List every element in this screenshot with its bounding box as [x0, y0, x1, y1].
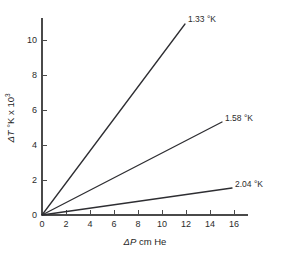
x-tick-label: 14	[205, 219, 215, 229]
series-line-1-33k	[42, 24, 185, 215]
y-tick-labels: 0 2 4 6 8 10	[27, 35, 37, 220]
y-tick-label: 6	[32, 105, 37, 115]
series-lines	[42, 24, 232, 215]
line-chart: 0 2 4 6 8 10 12 14 16 0 2 4 6 8 10 1.33 …	[0, 0, 292, 256]
y-axis-title: ΔT °K x 103	[4, 93, 16, 144]
y-tick-label: 4	[32, 140, 37, 150]
y-tick-label: 10	[27, 35, 37, 45]
series-label-2-04k: 2.04 °K	[235, 179, 263, 189]
y-tick-label: 8	[32, 70, 37, 80]
y-tick-label: 0	[32, 210, 37, 220]
x-tick-label: 2	[63, 219, 68, 229]
y-axis-title-delta: Δ	[5, 136, 16, 143]
y-tick-label: 2	[32, 175, 37, 185]
chart-figure: 0 2 4 6 8 10 12 14 16 0 2 4 6 8 10 1.33 …	[0, 0, 292, 256]
y-axis-title-exponent: 3	[4, 93, 11, 97]
x-tick-label: 0	[39, 219, 44, 229]
x-tick-label: 16	[229, 219, 239, 229]
series-label-1-33k: 1.33 °K	[188, 14, 216, 24]
y-tick-marks	[42, 40, 47, 215]
series-line-2-04k	[42, 188, 232, 215]
x-tick-label: 10	[157, 219, 167, 229]
x-tick-labels: 0 2 4 6 8 10 12 14 16	[39, 219, 239, 229]
x-tick-label: 4	[87, 219, 92, 229]
series-label-1-58k: 1.58 °K	[225, 113, 253, 123]
y-axis-title-degk: °K x 10	[5, 97, 16, 130]
x-axis-title-delta: Δ	[123, 236, 130, 247]
x-axis-title: ΔP cm He	[123, 236, 167, 247]
x-axis-title-rest: cm He	[136, 236, 166, 247]
x-tick-label: 8	[135, 219, 140, 229]
x-tick-label: 12	[181, 219, 191, 229]
series-line-1-58k	[42, 122, 222, 215]
x-tick-label: 6	[111, 219, 116, 229]
